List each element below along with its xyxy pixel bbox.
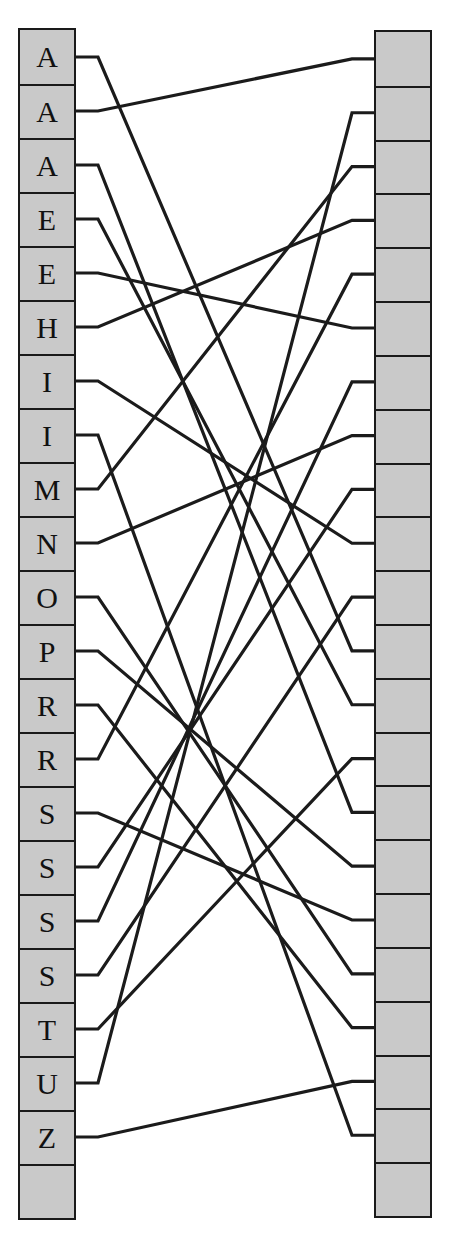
right-cell-18[interactable] <box>376 1001 430 1055</box>
left-cell-16[interactable]: S <box>20 894 74 948</box>
right-cell-6[interactable] <box>376 355 430 409</box>
left-cell-label-7: I <box>42 421 52 451</box>
left-cell-6[interactable]: I <box>20 354 74 408</box>
right-cell-21[interactable] <box>376 1162 430 1216</box>
right-cell-16[interactable] <box>376 893 430 947</box>
left-cell-label-15: S <box>39 853 56 883</box>
right-cell-9[interactable] <box>376 516 430 570</box>
matching-edge-6 <box>76 381 374 543</box>
left-cell-11[interactable]: P <box>20 624 74 678</box>
matching-edge-8 <box>76 167 374 489</box>
right-cell-15[interactable] <box>376 839 430 893</box>
left-cell-3[interactable]: E <box>20 192 74 246</box>
left-cell-label-2: A <box>36 151 58 181</box>
left-cell-12[interactable]: R <box>20 678 74 732</box>
left-cell-label-14: S <box>39 799 56 829</box>
left-cell-18[interactable]: T <box>20 1002 74 1056</box>
left-cell-label-17: S <box>39 961 56 991</box>
matching-edge-14 <box>76 813 374 920</box>
left-cell-label-12: R <box>37 691 57 721</box>
right-cell-12[interactable] <box>376 678 430 732</box>
left-cell-4[interactable]: E <box>20 246 74 300</box>
matching-edge-7 <box>76 435 374 1135</box>
left-cell-0[interactable]: A <box>20 30 74 84</box>
left-cell-20[interactable]: Z <box>20 1110 74 1164</box>
left-cell-label-13: R <box>37 745 57 775</box>
left-cell-label-3: E <box>38 205 56 235</box>
matching-edge-13 <box>76 274 374 759</box>
right-cell-5[interactable] <box>376 301 430 355</box>
right-cell-8[interactable] <box>376 463 430 517</box>
left-cell-label-0: A <box>36 42 58 72</box>
matching-edge-10 <box>76 597 374 974</box>
left-cell-label-19: U <box>36 1069 58 1099</box>
matching-edge-19 <box>76 113 374 1083</box>
left-cell-label-16: S <box>39 907 56 937</box>
right-cell-4[interactable] <box>376 247 430 301</box>
right-cell-13[interactable] <box>376 732 430 786</box>
left-cell-10[interactable]: O <box>20 570 74 624</box>
left-cell-label-10: O <box>36 583 58 613</box>
right-cell-19[interactable] <box>376 1055 430 1109</box>
left-cell-label-5: H <box>36 313 58 343</box>
left-cell-label-6: I <box>42 367 52 397</box>
left-cell-13[interactable]: R <box>20 732 74 786</box>
matching-edge-3 <box>76 219 374 705</box>
matching-edge-15 <box>76 489 374 867</box>
left-cell-17[interactable]: S <box>20 948 74 1002</box>
matching-edge-17 <box>76 597 374 975</box>
bipartite-diagram: AAAEEHIIMNOPRRSSSSTUZ <box>0 0 468 1249</box>
left-cell-5[interactable]: H <box>20 300 74 354</box>
right-cell-17[interactable] <box>376 947 430 1001</box>
left-cell-9[interactable]: N <box>20 516 74 570</box>
left-cell-label-9: N <box>36 529 58 559</box>
right-cell-10[interactable] <box>376 570 430 624</box>
matching-edge-11 <box>76 651 374 866</box>
matching-edge-16 <box>76 382 374 921</box>
right-node-column <box>374 30 432 1218</box>
matching-edge-5 <box>76 220 374 327</box>
left-cell-19[interactable]: U <box>20 1056 74 1110</box>
right-cell-20[interactable] <box>376 1108 430 1162</box>
left-cell-8[interactable]: M <box>20 462 74 516</box>
left-cell-label-4: E <box>38 259 56 289</box>
left-cell-1[interactable]: A <box>20 84 74 138</box>
right-cell-7[interactable] <box>376 409 430 463</box>
left-cell-21[interactable] <box>20 1164 74 1218</box>
matching-edge-12 <box>76 705 374 1028</box>
matching-edge-2 <box>76 165 374 812</box>
left-cell-7[interactable]: I <box>20 408 74 462</box>
left-cell-label-20: Z <box>38 1123 56 1153</box>
left-cell-label-11: P <box>39 637 56 667</box>
right-cell-11[interactable] <box>376 624 430 678</box>
matching-edge-0 <box>76 57 374 651</box>
left-cell-15[interactable]: S <box>20 840 74 894</box>
matching-edge-4 <box>76 273 374 328</box>
matching-edge-20 <box>76 1081 374 1137</box>
left-node-column: AAAEEHIIMNOPRRSSSSTUZ <box>18 28 76 1220</box>
left-cell-2[interactable]: A <box>20 138 74 192</box>
left-cell-14[interactable]: S <box>20 786 74 840</box>
right-cell-2[interactable] <box>376 140 430 194</box>
left-cell-label-8: M <box>34 475 61 505</box>
matching-edge-18 <box>76 759 374 1029</box>
left-cell-label-1: A <box>36 97 58 127</box>
matching-edge-9 <box>76 436 374 543</box>
right-cell-14[interactable] <box>376 785 430 839</box>
right-cell-1[interactable] <box>376 86 430 140</box>
right-cell-3[interactable] <box>376 193 430 247</box>
left-cell-label-18: T <box>38 1015 56 1045</box>
right-cell-0[interactable] <box>376 32 430 86</box>
matching-edge-1 <box>76 59 374 111</box>
